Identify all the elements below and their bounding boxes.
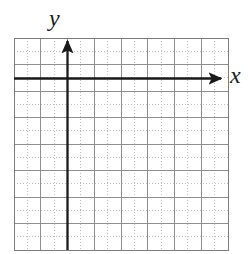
grid-canvas — [0, 0, 248, 254]
y-axis-label: y — [49, 6, 60, 30]
coordinate-grid-figure: y x — [0, 0, 248, 254]
x-axis-label: x — [230, 63, 241, 87]
